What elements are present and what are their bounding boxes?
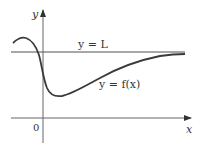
y-axis-label: y: [31, 8, 39, 21]
x-axis-label: x: [186, 123, 193, 136]
asymptote-label: y = L: [77, 38, 108, 51]
origin-label: 0: [33, 122, 39, 133]
curve-label: y = f(x): [98, 78, 140, 91]
limit-at-infinity-diagram: y x 0 y = L y = f(x): [0, 0, 204, 155]
